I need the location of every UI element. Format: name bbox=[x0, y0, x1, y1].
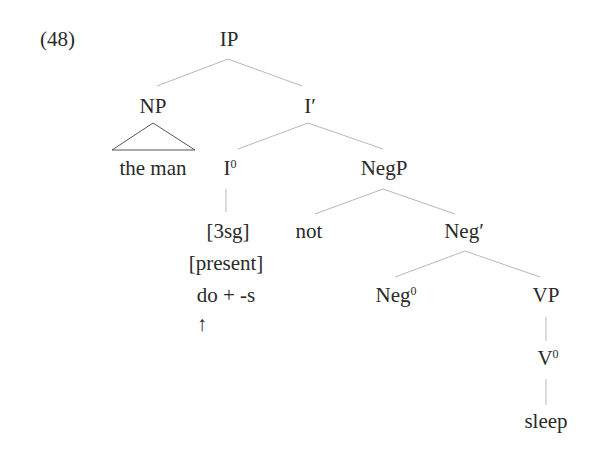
edge-ip-np bbox=[157, 59, 228, 86]
edge-negp-negbar bbox=[383, 189, 455, 214]
edge-ibar-i0 bbox=[238, 123, 308, 149]
node-ip: IP bbox=[220, 28, 239, 50]
node-v0-sup: 0 bbox=[553, 347, 559, 361]
node-neg0: Neg0 bbox=[376, 284, 417, 306]
edge-negbar-neg0 bbox=[395, 251, 465, 277]
node-i0-sup: 0 bbox=[231, 157, 237, 171]
feature-present: [present] bbox=[189, 252, 264, 274]
node-i0-base: I bbox=[224, 156, 231, 180]
leaf-the-man: the man bbox=[119, 157, 186, 179]
edge-negp-not bbox=[315, 189, 383, 214]
leaf-not: not bbox=[296, 220, 323, 242]
np-triangle bbox=[112, 123, 195, 150]
example-number: (48) bbox=[40, 28, 75, 50]
node-i0: I0 bbox=[224, 157, 237, 179]
edge-negbar-vp bbox=[465, 251, 540, 277]
node-neg0-base: Neg bbox=[376, 283, 411, 307]
node-v0: V0 bbox=[537, 347, 558, 369]
edge-ip-ibar bbox=[228, 59, 302, 86]
node-neg-bar: Neg′ bbox=[444, 220, 484, 242]
leaf-sleep: sleep bbox=[524, 410, 567, 432]
node-neg0-sup: 0 bbox=[411, 284, 417, 298]
node-vp: VP bbox=[533, 284, 560, 306]
node-i-bar: I′ bbox=[304, 95, 316, 117]
node-v0-base: V bbox=[537, 346, 552, 370]
node-negp: NegP bbox=[361, 157, 408, 179]
feature-3sg: [3sg] bbox=[206, 220, 249, 242]
syntax-tree-diagram: (48) IP NP I′ the man I0 NegP [3sg] not … bbox=[0, 0, 607, 455]
node-np: NP bbox=[140, 95, 167, 117]
up-arrow-icon: ↑ bbox=[197, 313, 208, 335]
edge-ibar-negp bbox=[308, 123, 383, 149]
leaf-do-s: do + -s bbox=[197, 284, 256, 306]
